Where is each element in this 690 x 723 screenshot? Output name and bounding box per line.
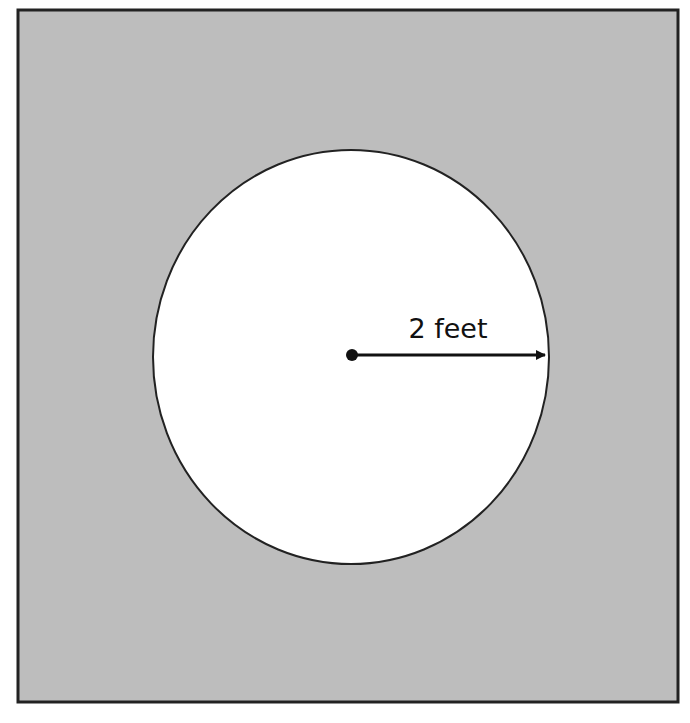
radius-label: 2 feet bbox=[408, 313, 487, 344]
circle-in-square-diagram: 2 feet bbox=[0, 0, 690, 723]
